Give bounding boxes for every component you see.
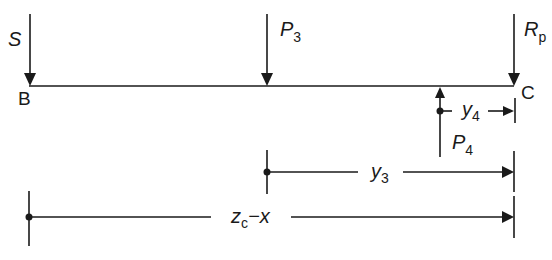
label-c: C bbox=[521, 82, 535, 103]
label-b: B bbox=[18, 88, 31, 109]
label-y3: y3 bbox=[369, 160, 389, 186]
diagram-svg: S B P3 Rp C y4 P4 y3 zc−x bbox=[0, 0, 552, 260]
label-zc-x: zc−x bbox=[230, 205, 271, 231]
dimension-zc-x bbox=[26, 191, 515, 246]
force-p3-arrow bbox=[261, 14, 273, 86]
force-s-arrow bbox=[24, 14, 36, 86]
label-rp: Rp bbox=[524, 18, 546, 45]
label-y4: y4 bbox=[460, 98, 480, 124]
force-p4-arrow bbox=[435, 87, 445, 157]
label-p3: P3 bbox=[280, 18, 301, 45]
force-rp-arrow bbox=[508, 14, 520, 86]
beam-diagram: S B P3 Rp C y4 P4 y3 zc−x bbox=[0, 0, 552, 260]
label-p4: P4 bbox=[452, 131, 473, 158]
label-s: S bbox=[8, 28, 22, 50]
